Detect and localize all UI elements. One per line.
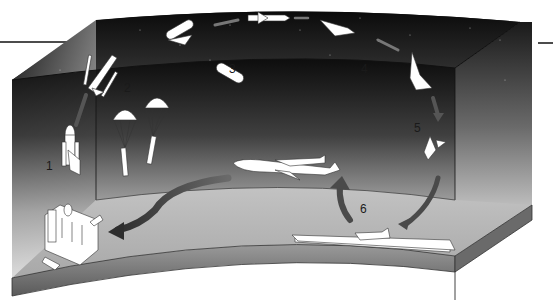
stage-label-3: 3 xyxy=(229,63,236,75)
stage-label-2: 2 xyxy=(124,82,131,94)
stage-label-5: 5 xyxy=(414,122,421,134)
shuttle-mission-diagram: 1 2 3 4 5 6 xyxy=(0,0,553,307)
stage-label-6: 6 xyxy=(360,203,367,215)
stage-label-4: 4 xyxy=(361,63,368,75)
stage-label-1: 1 xyxy=(46,160,53,172)
